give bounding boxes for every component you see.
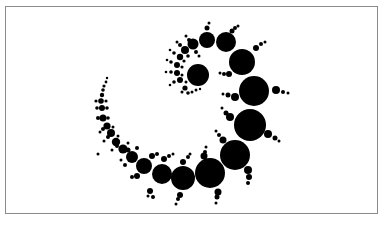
satellite-circle: [287, 92, 290, 95]
satellite-circle: [123, 163, 127, 167]
satellite-circle: [186, 54, 190, 58]
satellite-circle: [147, 195, 150, 198]
satellite-circle: [111, 149, 114, 152]
satellite-circle: [106, 135, 110, 139]
satellite-circle: [215, 189, 222, 196]
satellite-circle: [130, 175, 134, 179]
spiral-circle: [126, 151, 138, 163]
spiral-circle: [220, 140, 250, 170]
satellite-circle: [126, 148, 131, 153]
satellite-circle: [106, 116, 110, 120]
satellite-circle: [259, 42, 263, 46]
satellite-circle: [221, 107, 224, 110]
satellite-circle: [199, 88, 201, 90]
satellite-circle: [185, 81, 188, 84]
satellite-circle: [198, 55, 201, 58]
satellite-circle: [194, 50, 198, 54]
satellite-circle: [264, 130, 272, 138]
satellite-circle: [222, 72, 226, 76]
satellite-circle: [175, 203, 178, 206]
satellite-circle: [172, 80, 176, 84]
spiral-circle: [136, 158, 152, 174]
satellite-circle: [181, 74, 184, 77]
satellite-circle: [272, 86, 280, 94]
satellite-circle: [166, 59, 169, 62]
satellite-circle: [278, 140, 281, 143]
satellite-circle: [219, 72, 222, 75]
spiral-circle: [99, 105, 105, 111]
spiral-circle: [177, 77, 183, 83]
satellite-circle: [169, 70, 173, 74]
satellite-circle: [115, 144, 119, 148]
satellite-circle: [155, 152, 159, 156]
spiral-circle: [239, 76, 269, 106]
spiral-circle: [181, 46, 189, 54]
satellite-circle: [246, 174, 252, 180]
satellite-circle: [103, 140, 106, 143]
spiral-circle: [174, 62, 180, 68]
spiral-circle: [102, 84, 105, 87]
satellite-circle: [222, 93, 225, 96]
satellite-circle: [169, 49, 172, 52]
satellite-circle: [151, 195, 155, 199]
satellite-circle: [117, 135, 120, 138]
satellite-circle: [246, 181, 250, 185]
satellite-circle: [97, 153, 100, 156]
satellite-circle: [104, 99, 107, 102]
spiral-circle: [171, 166, 195, 190]
satellite-circle: [205, 146, 208, 149]
satellite-circle: [224, 111, 229, 116]
spiral-circle: [106, 77, 108, 79]
satellite-circle: [99, 131, 102, 134]
satellite-circle: [172, 51, 176, 55]
spiral-circle: [177, 54, 183, 60]
satellite-circle: [195, 89, 198, 92]
satellite-circle: [182, 59, 185, 62]
satellite-circle: [149, 153, 155, 159]
satellite-circle: [220, 137, 227, 144]
satellite-circle: [186, 155, 190, 159]
satellite-circle: [281, 90, 285, 94]
spiral-circle: [174, 70, 180, 76]
satellite-circle: [167, 154, 171, 158]
satellite-circle: [273, 136, 278, 141]
satellite-circle: [185, 35, 188, 38]
satellite-circle: [208, 22, 211, 25]
satellite-circle: [169, 84, 172, 87]
satellite-circle: [94, 99, 97, 102]
satellite-circle: [217, 133, 221, 137]
satellite-circle: [165, 71, 168, 74]
satellite-circle: [176, 197, 180, 201]
satellite-circle: [231, 93, 239, 101]
satellite-circle: [215, 130, 218, 133]
spiral-circle: [182, 85, 187, 90]
spiral-circle: [98, 98, 104, 104]
satellite-circle: [187, 38, 191, 42]
satellite-circle: [105, 106, 109, 110]
satellite-circle: [186, 91, 190, 95]
satellite-circle: [180, 65, 183, 68]
satellite-circle: [169, 60, 173, 64]
satellite-circle: [244, 166, 252, 174]
spiral-circle: [229, 49, 255, 75]
satellite-circle: [203, 150, 207, 154]
satellite-circle: [120, 159, 123, 162]
satellite-circle: [226, 71, 232, 77]
satellite-circle: [180, 159, 186, 165]
satellite-circle: [253, 45, 259, 51]
spiral-circle: [234, 109, 266, 141]
satellite-circle: [112, 126, 115, 129]
satellite-circle: [215, 195, 220, 200]
satellite-circle: [181, 91, 184, 94]
spiral-circle: [100, 93, 104, 97]
satellite-circle: [135, 146, 139, 150]
spiral-circle: [199, 32, 215, 48]
spiral-circle: [216, 32, 236, 52]
satellite-circle: [233, 26, 237, 30]
satellite-circle: [95, 106, 99, 110]
spiral-circle: [187, 64, 209, 86]
satellite-circle: [264, 41, 267, 44]
satellite-circle: [147, 188, 153, 194]
satellite-circle: [172, 153, 175, 156]
satellite-circle: [189, 153, 192, 156]
